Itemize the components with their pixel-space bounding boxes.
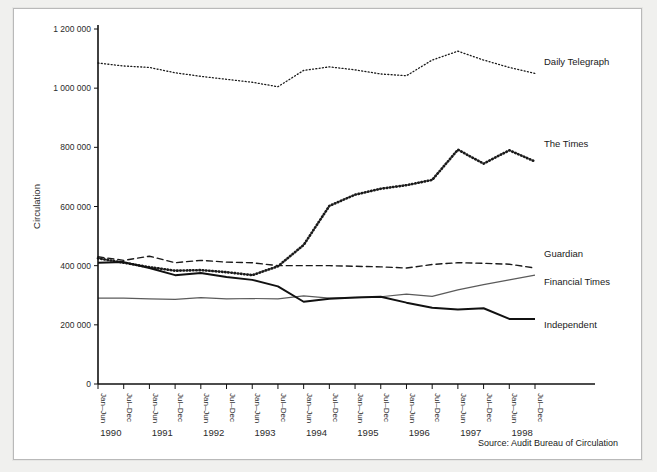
series-line-guardian <box>98 256 535 268</box>
series-label-guardian: Guardian <box>544 248 583 259</box>
series-line-financial-times <box>98 275 535 299</box>
x-tick-label: Jul–Dec <box>485 393 494 422</box>
series-label-financial-times: Financial Times <box>544 276 610 287</box>
y-tick-label: 600 000 <box>60 202 91 212</box>
series-line-daily-telegraph <box>98 51 535 87</box>
series-group <box>98 51 535 319</box>
x-tick-group: Jan–JunJul–DecJan–JunJul–DecJan–JunJul–D… <box>98 384 545 423</box>
x-tick-label: Jan–Jun <box>253 393 262 423</box>
x-tick-label: Jul–Dec <box>125 393 134 422</box>
year-label: 1991 <box>152 427 173 438</box>
year-label: 1997 <box>460 427 481 438</box>
y-tick-label: 400 000 <box>60 261 91 271</box>
x-tick-label: Jan–Jun <box>510 393 519 423</box>
year-label: 1992 <box>203 427 224 438</box>
line-chart-svg: 0200 000400 000600 000800 0001 000 0001 … <box>14 9 641 459</box>
source-note: Source: Audit Bureau of Circulation <box>478 438 618 448</box>
year-label: 1990 <box>100 427 121 438</box>
year-label: 1993 <box>255 427 276 438</box>
y-tick-group: 0200 000400 000600 000800 0001 000 0001 … <box>53 24 98 389</box>
x-tick-label: Jul–Dec <box>382 393 391 422</box>
x-tick-label: Jan–Jun <box>151 393 160 423</box>
x-tick-label: Jul–Dec <box>331 393 340 422</box>
y-tick-label: 0 <box>86 379 91 389</box>
x-tick-label: Jul–Dec <box>176 393 185 422</box>
chart-canvas: 0200 000400 000600 000800 0001 000 0001 … <box>14 9 641 459</box>
x-tick-label: Jul–Dec <box>228 393 237 422</box>
x-tick-label: Jan–Jun <box>356 393 365 423</box>
x-tick-label: Jan–Jun <box>408 393 417 423</box>
y-axis-title: Circulation <box>31 184 42 229</box>
year-label: 1998 <box>512 427 533 438</box>
series-label-group: Daily TelegraphThe TimesGuardianFinancia… <box>544 56 610 331</box>
year-label-group: 199019911992199319941995199619971998 <box>100 427 532 438</box>
chart-frame: 0200 000400 000600 000800 0001 000 0001 … <box>13 8 642 460</box>
y-tick-label: 1 200 000 <box>53 24 91 34</box>
y-tick-label: 200 000 <box>60 320 91 330</box>
series-label-daily-telegraph: Daily Telegraph <box>544 56 609 67</box>
x-tick-label: Jan–Jun <box>99 393 108 423</box>
series-line-the-times <box>98 150 535 275</box>
year-label: 1995 <box>357 427 378 438</box>
y-tick-label: 1 000 000 <box>53 83 91 93</box>
x-tick-label: Jul–Dec <box>536 393 545 422</box>
year-label: 1994 <box>306 427 327 438</box>
y-tick-label: 800 000 <box>60 142 91 152</box>
series-label-independent: Independent <box>544 319 597 330</box>
x-tick-label: Jan–Jun <box>305 393 314 423</box>
series-line-independent <box>98 262 535 319</box>
x-tick-label: Jul–Dec <box>279 393 288 422</box>
x-tick-label: Jan–Jun <box>459 393 468 423</box>
axes-group <box>98 25 595 384</box>
series-label-the-times: The Times <box>544 138 589 149</box>
x-tick-label: Jan–Jun <box>202 393 211 423</box>
year-label: 1996 <box>409 427 430 438</box>
x-tick-label: Jul–Dec <box>433 393 442 422</box>
